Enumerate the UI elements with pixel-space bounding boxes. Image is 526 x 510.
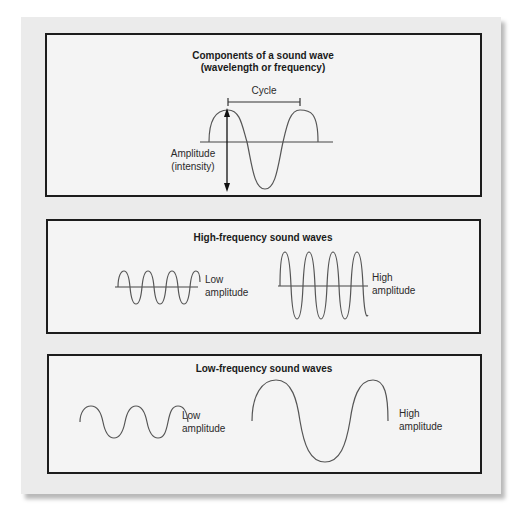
lf-high-amplitude-wave (252, 380, 388, 462)
arrow-up-icon (224, 108, 230, 117)
lf-low-amplitude-wave (80, 406, 188, 438)
wave-drawings (0, 0, 526, 510)
figure-stage: Components of a sound wave (wavelength o… (0, 0, 526, 510)
arrow-down-icon (224, 183, 230, 192)
components-wave (209, 110, 318, 189)
